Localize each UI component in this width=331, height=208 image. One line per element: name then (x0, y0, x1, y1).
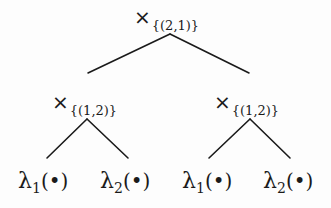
leaf-index: 2 (114, 180, 123, 196)
right-subscript: {(1,2)} (232, 103, 279, 118)
product-operator: × (134, 5, 151, 29)
edge-left-leaf1 (47, 119, 87, 158)
edge-right-leaf4 (250, 119, 290, 158)
leaf-1: λ1(•) (18, 170, 68, 192)
bullet-icon: • (294, 169, 306, 193)
lambda-symbol: λ (18, 168, 32, 193)
edge-left-leaf2 (87, 119, 128, 158)
root-subscript: {(2,1)} (152, 18, 199, 33)
right-node: ×{(1,2)} (214, 92, 279, 112)
left-subscript: {(1,2)} (70, 103, 117, 118)
edge-root-right (170, 34, 249, 73)
left-node: ×{(1,2)} (52, 92, 117, 112)
bullet-icon: • (213, 169, 225, 193)
leaf-2: λ2(•) (100, 170, 150, 192)
bullet-icon: • (131, 169, 143, 193)
leaf-3: λ1(•) (182, 170, 232, 192)
leaf-index: 1 (32, 180, 41, 196)
leaf-index: 1 (196, 180, 205, 196)
lambda-symbol: λ (263, 168, 277, 193)
product-operator: × (52, 90, 69, 114)
product-operator: × (214, 90, 231, 114)
tree-diagram: ×{(2,1)} ×{(1,2)} ×{(1,2)} λ1(•) λ2(•) λ… (0, 0, 331, 208)
lambda-symbol: λ (100, 168, 114, 193)
leaf-index: 2 (277, 180, 286, 196)
bullet-icon: • (49, 169, 61, 193)
root-node: ×{(2,1)} (134, 7, 199, 27)
lambda-symbol: λ (182, 168, 196, 193)
leaf-4: λ2(•) (263, 170, 313, 192)
edge-root-left (88, 34, 170, 73)
edge-right-leaf3 (209, 119, 250, 158)
